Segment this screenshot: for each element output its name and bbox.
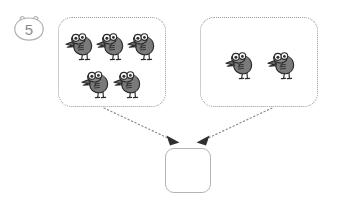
list-item	[79, 63, 113, 99]
bird-icon	[94, 25, 128, 61]
list-item	[111, 63, 145, 99]
bird-icon	[111, 63, 145, 99]
answer-input-box[interactable]	[165, 148, 211, 193]
group-right	[200, 17, 318, 107]
bird-icon	[79, 63, 113, 99]
bird-icon	[125, 25, 159, 61]
list-item	[63, 25, 97, 61]
bird-icon	[265, 44, 299, 80]
question-number-badge: 5	[12, 14, 46, 42]
worksheet-canvas: 5	[0, 0, 338, 202]
question-number-label: 5	[12, 14, 46, 42]
list-item	[265, 44, 299, 80]
arrow-from-left-group	[104, 108, 180, 146]
list-item	[94, 25, 128, 61]
bird-icon	[223, 44, 257, 80]
list-item	[223, 44, 257, 80]
list-item	[125, 25, 159, 61]
arrow-from-right-group	[197, 108, 273, 146]
group-left	[58, 17, 166, 107]
bird-icon	[63, 25, 97, 61]
